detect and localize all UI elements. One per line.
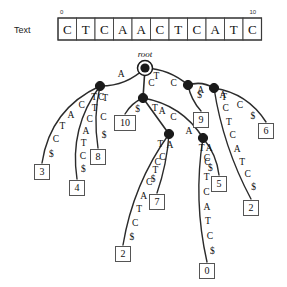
edge-char-label: $ [208,163,213,173]
edge-char-label: A [234,144,241,154]
leaf-index-label: 4 [75,182,80,193]
edge-char-label: $ [130,232,135,242]
sequence-char: C [63,22,72,37]
edge-char-label: T [226,117,232,127]
edge-char-label: A [167,140,174,150]
edge-char-label: A [159,106,166,116]
leaf-index-label: 0 [205,265,210,276]
index-label-end: 10 [250,9,257,15]
leaf-index-label: 7 [155,196,160,207]
edge-char-label: C [204,153,210,163]
edge-char-label: A [203,202,210,212]
edge-char-label: A [197,85,204,95]
edge-char-label: T [199,143,205,153]
edge-char-label: T [204,172,210,182]
edge-char-label: C [100,112,106,122]
edge-char-label: C [203,187,209,197]
edge-char-label: A [83,126,90,136]
leaf-index-label: 8 [96,151,101,162]
text-strip-group: Text010CTCAACTCATC [14,9,262,40]
edge-char-label: $ [49,149,54,159]
edge-char-label: $ [210,246,215,256]
edge-char-label: C [78,100,84,110]
edge-char-label: T [136,204,142,214]
sequence-char: T [174,22,182,37]
edge-char-label: $ [102,130,107,140]
edge-char-label: T [102,93,108,103]
tree-edge [123,134,169,245]
edge-char-label: $ [251,111,256,121]
edge-char-label: $ [151,174,156,184]
edge-char-label: A [206,143,213,153]
sequence-char: C [100,22,109,37]
tree-leaves-group: 348102705962 [35,113,274,279]
suffix-tree-figure: Text010CTCAACTCATCACTCTCATC$CTCATC$TC$$A… [0,0,287,287]
edge-char-label: C [170,112,176,122]
leaf-index-label: 9 [199,114,204,125]
leaf-index-label: 2 [249,202,254,213]
leaf-index-label: 5 [217,178,222,189]
root-label: root [138,49,153,59]
edge-char-label: C [230,130,236,140]
edge-char-label: C [222,103,228,113]
edge-char-label: T [158,139,164,149]
edge-char-label: C [53,134,59,144]
edge-char-label: C [171,78,177,88]
leaf-index-label: 3 [40,166,45,177]
edge-char-label: $ [251,182,256,192]
edge-char-label: T [60,121,66,131]
sequence-char: T [230,22,238,37]
sequence-char: T [82,22,90,37]
edge-char-label: T [205,216,211,226]
edge-char-label: C [80,151,86,161]
internal-node[interactable] [95,81,104,90]
edge-char-label: C [87,114,93,124]
sequence-char: A [211,22,221,37]
internal-node[interactable] [198,133,207,142]
sequence-char: C [192,22,201,37]
figure-canvas: Text010CTCAACTCATCACTCTCATC$CTCATC$TC$$A… [0,0,287,287]
edge-char-label: C [237,100,243,110]
edge-char-label: A [140,191,147,201]
edge-char-label: C [154,157,160,167]
sequence-char: A [137,22,147,37]
edge-char-label: T [81,138,87,148]
edge-char-label: A [219,90,226,100]
leaf-index-label: 2 [121,248,126,259]
sequence-char: A [118,22,128,37]
internal-node[interactable] [209,83,218,92]
edge-char-label: C [132,218,138,228]
edge-char-label: T [91,92,97,102]
index-label-start: 0 [60,9,64,15]
sequence-char: C [155,22,164,37]
edge-char-label: A [68,110,75,120]
edge-char-label: T [154,71,160,81]
edge-char-label: A [118,69,125,79]
internal-node[interactable] [138,93,147,102]
edge-char-label: T [239,157,245,167]
sequence-char: C [248,22,257,37]
edge-char-label: C [244,169,250,179]
edge-char-label: T [152,103,158,113]
edge-char-label: A [185,126,192,136]
internal-node[interactable] [183,80,192,89]
edge-char-label: $ [135,104,140,114]
edge-char-label: $ [81,164,86,174]
edge-char-label: C [207,231,213,241]
root-node[interactable] [140,63,149,72]
leaf-index-label: 6 [264,125,269,136]
internal-node[interactable] [164,129,173,138]
text-strip-caption: Text [14,25,31,35]
edge-char-label: T [92,103,98,113]
leaf-index-label: 10 [120,117,130,128]
